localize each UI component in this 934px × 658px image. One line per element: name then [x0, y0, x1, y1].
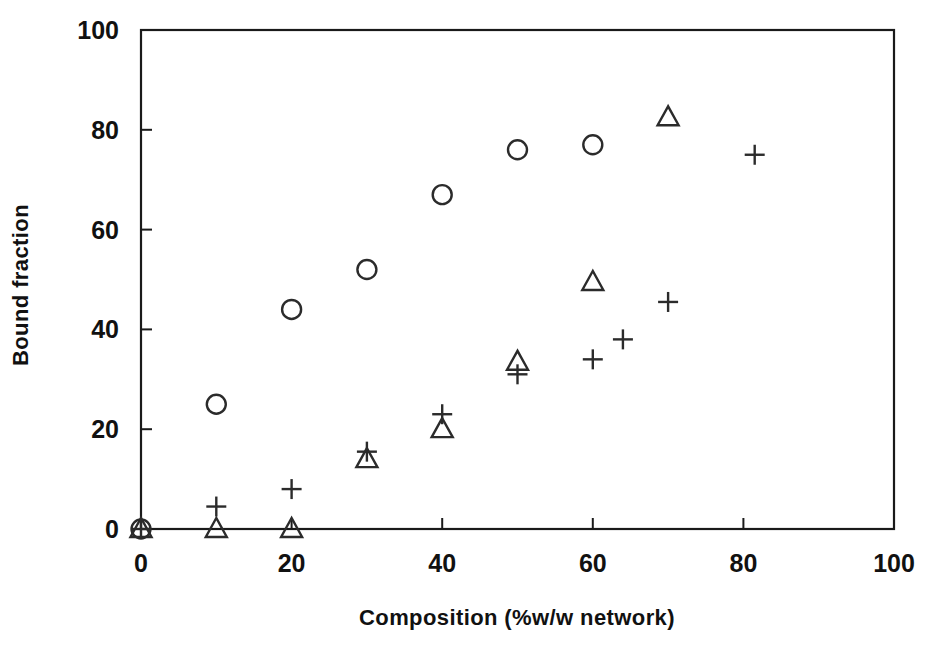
x-tick-label: 20: [278, 549, 306, 577]
y-axis-tick-labels: 020406080100: [77, 16, 119, 543]
x-tick-label: 60: [579, 549, 607, 577]
data-point-plus: [583, 349, 603, 369]
data-point-plus: [206, 497, 226, 517]
series-plus: [131, 145, 765, 539]
data-point-circle: [282, 300, 301, 319]
y-axis-title: Bound fraction: [8, 204, 33, 366]
data-point-circle: [357, 260, 376, 279]
data-point-plus: [282, 479, 302, 499]
y-tick-label: 0: [105, 515, 119, 543]
y-tick-label: 20: [91, 415, 119, 443]
data-point-circle: [433, 185, 452, 204]
data-point-plus: [658, 292, 678, 312]
x-tick-label: 80: [729, 549, 757, 577]
plot-canvas: 020406080100 020406080100 Composition (%…: [0, 0, 934, 658]
x-axis-ticks: [292, 518, 744, 529]
y-axis-ticks: [141, 130, 152, 429]
data-series-layer: [131, 106, 765, 539]
data-point-triangle: [582, 271, 603, 290]
y-tick-label: 100: [77, 16, 119, 44]
data-point-circle: [207, 395, 226, 414]
data-point-circle: [508, 140, 527, 159]
data-point-circle: [583, 135, 602, 154]
x-axis-tick-labels: 020406080100: [134, 549, 915, 577]
data-point-triangle: [206, 518, 227, 537]
x-axis-title: Composition (%w/w network): [359, 605, 675, 630]
series-circle: [132, 135, 603, 538]
scatter-plot-figure: 020406080100 020406080100 Composition (%…: [0, 0, 934, 658]
plot-frame: [141, 30, 894, 529]
data-point-plus: [432, 404, 452, 424]
data-point-triangle: [658, 106, 679, 125]
series-triangle: [131, 106, 679, 537]
y-tick-label: 40: [91, 315, 119, 343]
y-tick-label: 80: [91, 116, 119, 144]
data-point-plus: [745, 145, 765, 165]
x-tick-label: 100: [873, 549, 915, 577]
data-point-plus: [613, 329, 633, 349]
x-tick-label: 0: [134, 549, 148, 577]
data-point-plus: [508, 364, 528, 384]
y-tick-label: 60: [91, 216, 119, 244]
x-tick-label: 40: [428, 549, 456, 577]
